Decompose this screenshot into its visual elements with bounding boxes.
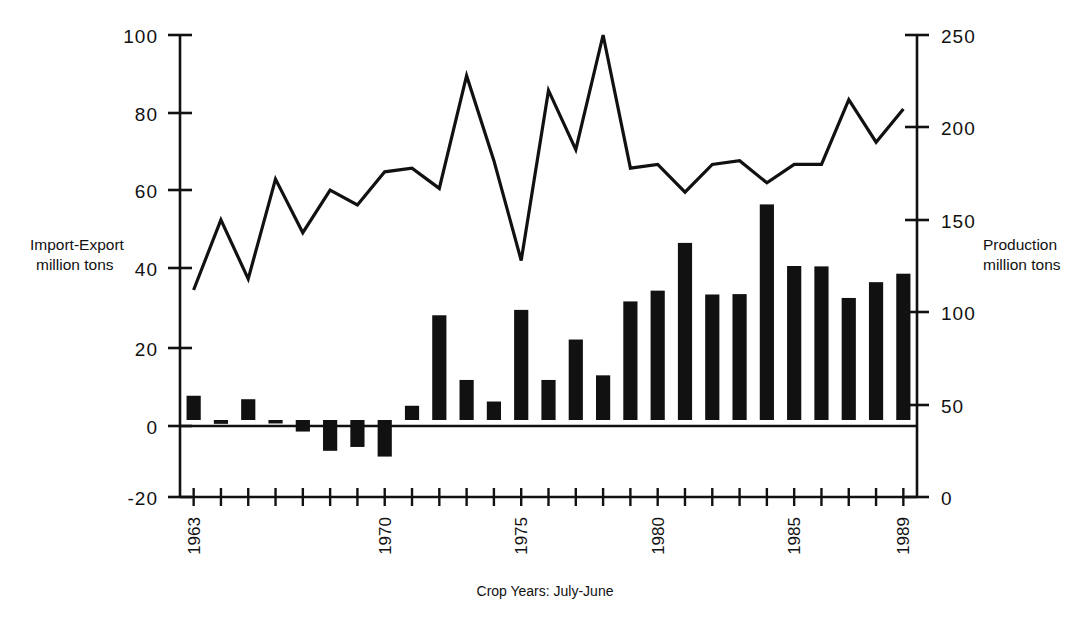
bar [569,340,583,420]
bar [214,420,228,424]
right-axis-title-line1: Production [983,236,1057,253]
production-line-series [194,35,904,290]
bar [487,402,501,420]
bar [596,375,610,420]
x-axis-title: Crop Years: July-June [477,583,614,599]
x-axis-tick-label: 1975 [512,517,531,555]
right-axis-tick-labels: 250 200 150 100 50 0 [941,26,976,509]
right-tick-label-250: 250 [941,26,976,47]
left-tick-label-neg20: -20 [128,488,158,509]
bar [187,396,201,420]
left-tick-label-20: 20 [135,339,158,360]
bar-series [187,204,911,456]
bar [814,266,828,420]
right-tick-label-100: 100 [941,303,976,324]
x-axis-tick-label: 1989 [894,517,913,555]
bar [460,380,474,420]
left-tick-label-100: 100 [123,26,158,47]
bar [705,294,719,420]
right-tick-label-150: 150 [941,211,976,232]
x-axis-tick-label: 1985 [785,517,804,555]
bar [268,420,282,423]
bar [651,291,665,420]
left-tick-label-0: 0 [146,417,158,438]
bar [623,301,637,420]
left-axis-tick-labels: 100 80 60 40 20 0 -20 [123,26,158,509]
bar [678,243,692,420]
axis-lines [180,35,917,497]
bar [405,406,419,420]
x-axis-tick-label: 1970 [376,517,395,555]
bar [842,298,856,420]
chart-svg: 100 80 60 40 20 0 -20 250 200 150 100 50… [0,0,1091,631]
x-axis-tick-label: 1980 [649,517,668,555]
x-axis-tick-labels: 196319701975198019851989 [185,517,914,555]
right-tick-label-200: 200 [941,118,976,139]
bar [896,274,910,420]
right-axis-title: Production million tons [983,236,1061,273]
left-tick-label-60: 60 [135,181,158,202]
bar [296,420,310,432]
left-tick-label-40: 40 [135,259,158,280]
left-axis-title-line1: Import-Export [30,236,125,253]
bar [787,266,801,420]
bar [869,282,883,420]
bar [514,310,528,420]
left-axis-title-line2: million tons [36,256,114,273]
left-axis-title: Import-Export million tons [30,236,125,273]
bar [378,420,392,457]
right-tick-label-0: 0 [941,488,953,509]
bar [350,420,364,447]
x-axis-tick-label: 1963 [185,517,204,555]
right-axis-title-line2: million tons [983,256,1061,273]
bar [241,399,255,420]
bar [323,420,337,451]
bar [432,315,446,420]
bar [541,380,555,420]
left-tick-label-80: 80 [135,104,158,125]
bar [732,294,746,420]
bar [760,204,774,420]
chart-container: 100 80 60 40 20 0 -20 250 200 150 100 50… [0,0,1091,631]
right-tick-label-50: 50 [941,396,964,417]
